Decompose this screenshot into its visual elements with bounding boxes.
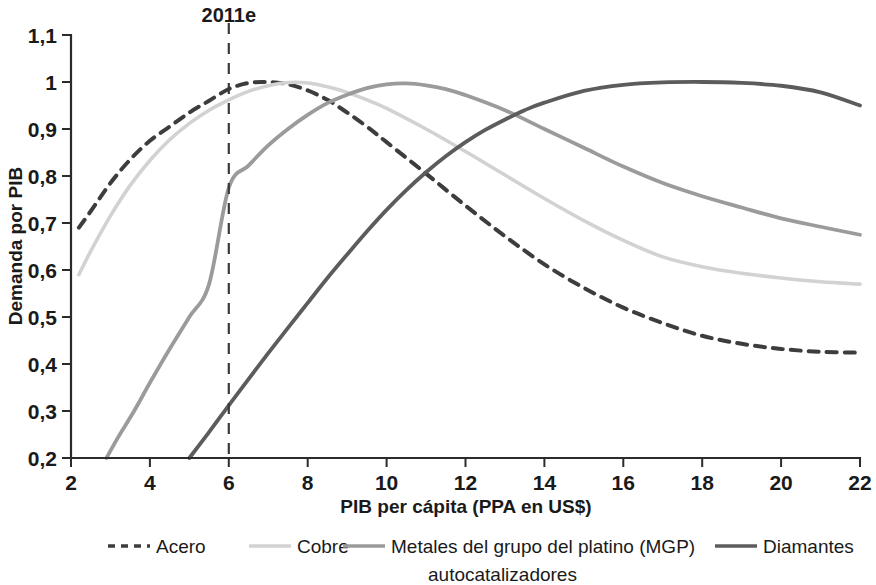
legend-label-line2: autocatalizadores [428, 564, 577, 585]
x-tick-label: 12 [454, 471, 477, 494]
x-tick-label: 16 [612, 471, 635, 494]
x-tick-label: 10 [375, 471, 398, 494]
y-tick-label: 1 [45, 71, 57, 94]
marker-label: 2011e [202, 4, 257, 26]
y-tick-label: 0,5 [28, 306, 58, 329]
y-tick-label: 0,2 [28, 447, 57, 470]
demand-per-gdp-line-chart: 2011e 0,20,30,40,50,60,70,80,911,1 24681… [0, 0, 876, 585]
y-tick-label: 0,4 [28, 353, 58, 376]
axis-layer [71, 35, 860, 458]
x-axis-ticks: 246810121416182022 [65, 458, 872, 494]
legend-label: Acero [156, 536, 206, 557]
y-tick-label: 1,1 [28, 24, 58, 47]
series-line [79, 82, 860, 353]
chart-container: 2011e 0,20,30,40,50,60,70,80,911,1 24681… [0, 0, 876, 585]
chart-legend: AceroCobreMetales del grupo del platino … [108, 536, 854, 585]
legend-label: Diamantes [763, 536, 854, 557]
x-tick-label: 14 [533, 471, 557, 494]
series-line [189, 82, 860, 458]
y-tick-label: 0,9 [28, 118, 57, 141]
x-tick-label: 2 [65, 471, 77, 494]
annotation-layer: 2011e [202, 4, 257, 458]
x-tick-label: 6 [223, 471, 235, 494]
series-line [107, 83, 861, 458]
legend-label: Cobre [297, 536, 349, 557]
x-tick-label: 4 [144, 471, 156, 494]
x-axis-title: PIB per cápita (PPA en US$) [340, 496, 591, 517]
y-tick-label: 0,3 [28, 400, 57, 423]
y-tick-label: 0,6 [28, 259, 57, 282]
x-tick-label: 8 [302, 471, 314, 494]
y-axis-title: Demanda por PIB [5, 167, 26, 325]
y-axis-ticks: 0,20,30,40,50,60,70,80,911,1 [28, 24, 71, 470]
series-layer [79, 82, 860, 458]
x-tick-label: 20 [769, 471, 792, 494]
legend-label: Metales del grupo del platino (MGP) [391, 536, 695, 557]
series-line [79, 82, 860, 284]
y-tick-label: 0,7 [28, 212, 57, 235]
x-tick-label: 22 [848, 471, 871, 494]
y-tick-label: 0,8 [28, 165, 58, 188]
x-tick-label: 18 [691, 471, 715, 494]
